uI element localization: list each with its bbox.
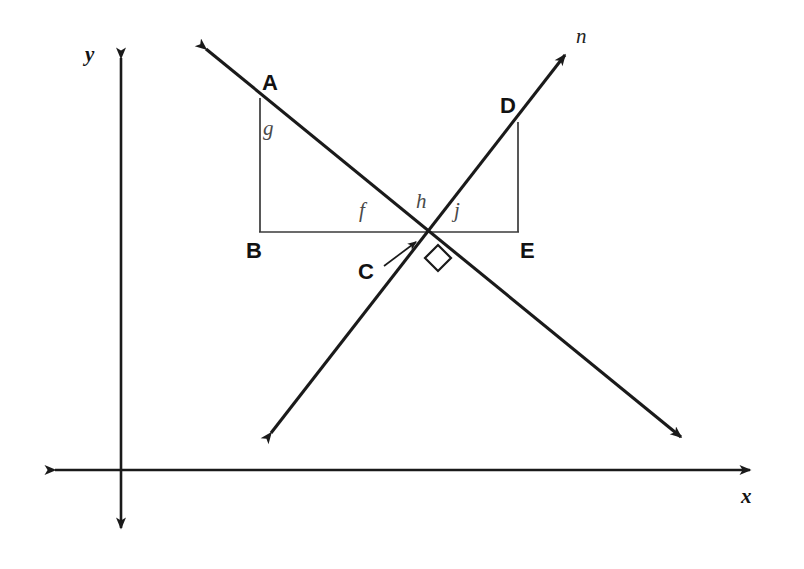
x-axis-label: x bbox=[741, 486, 752, 507]
line-m bbox=[206, 49, 681, 437]
geometry-svg bbox=[0, 0, 804, 569]
diagram-canvas: y x n A B C D E g f h j bbox=[0, 0, 804, 569]
line-n-label: n bbox=[576, 26, 587, 47]
angle-label-j: j bbox=[454, 200, 460, 221]
right-angle-marker bbox=[425, 245, 451, 271]
point-label-b: B bbox=[246, 240, 262, 262]
point-label-c: C bbox=[358, 261, 374, 283]
angle-label-f: f bbox=[359, 200, 365, 221]
point-label-e: E bbox=[520, 240, 535, 262]
point-label-d: D bbox=[500, 95, 516, 117]
segment-label-g: g bbox=[263, 118, 274, 139]
point-label-a: A bbox=[262, 72, 278, 94]
coordinate-axes bbox=[55, 58, 750, 528]
angle-label-h: h bbox=[416, 191, 427, 212]
y-axis-label: y bbox=[85, 44, 94, 65]
